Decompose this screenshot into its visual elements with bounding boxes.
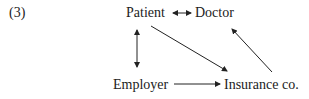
- diagram-edges: [0, 0, 309, 99]
- edge-patient-insurance: [151, 26, 227, 71]
- edge-insurance-doctor: [232, 29, 272, 72]
